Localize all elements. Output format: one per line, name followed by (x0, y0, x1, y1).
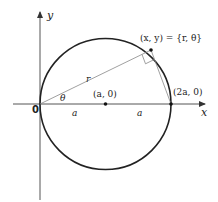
point-xy (149, 48, 153, 52)
point-2a (169, 102, 173, 106)
origin-label: 0 (32, 104, 39, 115)
point-label: (x, y) = {r, θ} (140, 33, 202, 43)
point-center (104, 102, 108, 106)
segment-a-left: a (72, 108, 77, 118)
theta-label: θ (60, 93, 66, 103)
x-axis-label: x (201, 106, 208, 119)
circle-polar-diagram: y x 0 θ r (a, 0) (2a, 0) a a (x, y) = {r… (0, 0, 218, 202)
segment-a-right: a (137, 108, 142, 118)
center-label: (a, 0) (93, 89, 117, 99)
diameter-end-label: (2a, 0) (173, 87, 203, 97)
chord-to-2a (151, 50, 171, 104)
r-label: r (86, 74, 91, 84)
y-axis-label: y (46, 9, 54, 22)
